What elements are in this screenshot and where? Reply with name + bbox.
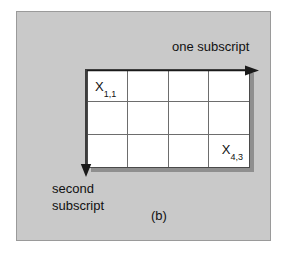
- cell-label-last-subscript: 4,3: [230, 152, 243, 162]
- matrix-cell-r3c1: [88, 135, 128, 167]
- matrix-cell-r3c3: [169, 135, 209, 167]
- axis-label-vertical: second subscript: [52, 180, 104, 214]
- matrix-cell-r2c3: [169, 102, 209, 134]
- matrix-cell-r2c2: [128, 102, 168, 134]
- figure-caption: (b): [151, 208, 167, 223]
- axis-label-vertical-line1: second: [52, 180, 104, 197]
- axis-label-horizontal: one subscript: [172, 39, 249, 54]
- matrix-grid: X1,1 X4,3: [87, 69, 250, 168]
- cell-label-first: X1,1: [95, 79, 116, 97]
- axis-label-vertical-line2: subscript: [52, 197, 104, 214]
- figure-panel: X1,1 X4,3 one subscript second subscript…: [16, 11, 271, 241]
- matrix-cell-r3c2: [128, 135, 168, 167]
- matrix-cell-r2c4: [209, 102, 249, 134]
- matrix-cell-r2c1: [88, 102, 128, 134]
- cell-label-first-base: X: [95, 79, 104, 94]
- matrix-cell-r3c4: X4,3: [209, 135, 249, 167]
- arrow-right-icon: [87, 65, 259, 76]
- cell-label-first-subscript: 1,1: [104, 89, 117, 99]
- cell-label-last: X4,3: [222, 142, 243, 160]
- arrow-down-icon: [80, 69, 92, 177]
